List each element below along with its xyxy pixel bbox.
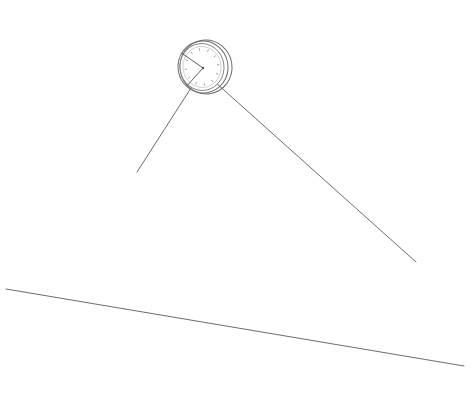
- center-hub: [202, 67, 204, 69]
- canvas-background: [0, 0, 474, 405]
- drawing-canvas: A round analog wall clock hangs at the j…: [0, 0, 474, 405]
- line-drawing-svg: [0, 0, 474, 405]
